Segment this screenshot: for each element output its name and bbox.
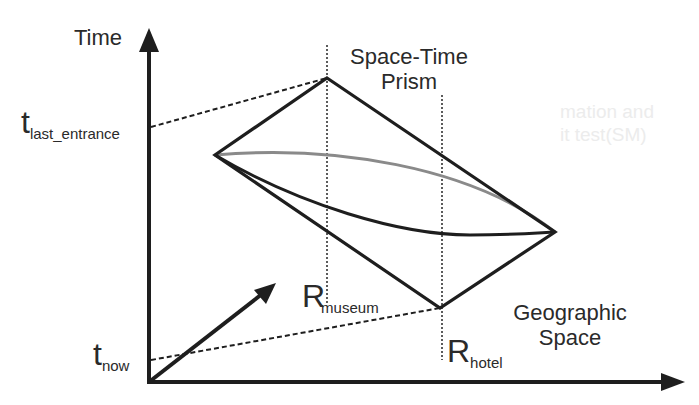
space-time-prism-diagram: mation and it test(SM) xyxy=(0,0,699,405)
time-axis-arrowhead-icon xyxy=(139,28,159,52)
t-now-label: tnow xyxy=(93,338,129,370)
prism-title: Space-Time Prism xyxy=(334,44,484,94)
gray-trajectory-path xyxy=(215,153,555,232)
second-space-axis-arrow xyxy=(149,283,276,382)
space-axis xyxy=(147,373,685,391)
now-projection xyxy=(151,308,440,360)
prism-outline xyxy=(215,78,555,308)
t-last-entrance-label: tlast_entrance xyxy=(21,106,120,138)
time-axis-label: Time xyxy=(74,27,122,49)
diagonal-arrowhead-icon xyxy=(254,283,276,304)
black-trajectory-path xyxy=(215,155,555,235)
last-entrance-projection xyxy=(151,78,327,127)
r-hotel-label: Rhotel xyxy=(447,335,503,367)
geographic-space-label: Geographic Space xyxy=(500,300,640,350)
space-axis-arrowhead-icon xyxy=(661,373,685,391)
time-axis xyxy=(139,28,159,383)
r-museum-label: Rmuseum xyxy=(302,280,379,312)
